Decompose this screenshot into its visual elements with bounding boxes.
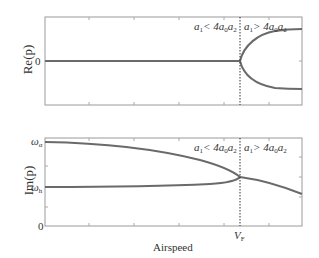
chart-canvas bbox=[0, 0, 319, 258]
im-p-coalesced-line bbox=[240, 177, 302, 194]
top-annotation-left: a1< 4a0a2 bbox=[194, 21, 237, 34]
omega-alpha-tick-label: ωα bbox=[31, 136, 42, 149]
bottom-zero-tick-label: 0 bbox=[38, 221, 44, 232]
flutter-speed-tick-label: VF bbox=[234, 230, 245, 243]
bottom-annotation-right: a1> 4a0a2 bbox=[244, 142, 287, 155]
im-p-plunge-mode bbox=[45, 177, 240, 187]
omega-h-tick-label: ωh bbox=[31, 182, 42, 195]
top-annotation-right: a1> 4a0a2 bbox=[244, 21, 287, 34]
x-axis-label: Airspeed bbox=[153, 242, 193, 253]
re-p-lower-branch bbox=[240, 61, 302, 89]
top-zero-tick-label: 0 bbox=[35, 56, 41, 67]
bottom-annotation-left: a1< 4a0a2 bbox=[194, 142, 237, 155]
top-y-axis-label: Re(p) bbox=[21, 45, 34, 75]
